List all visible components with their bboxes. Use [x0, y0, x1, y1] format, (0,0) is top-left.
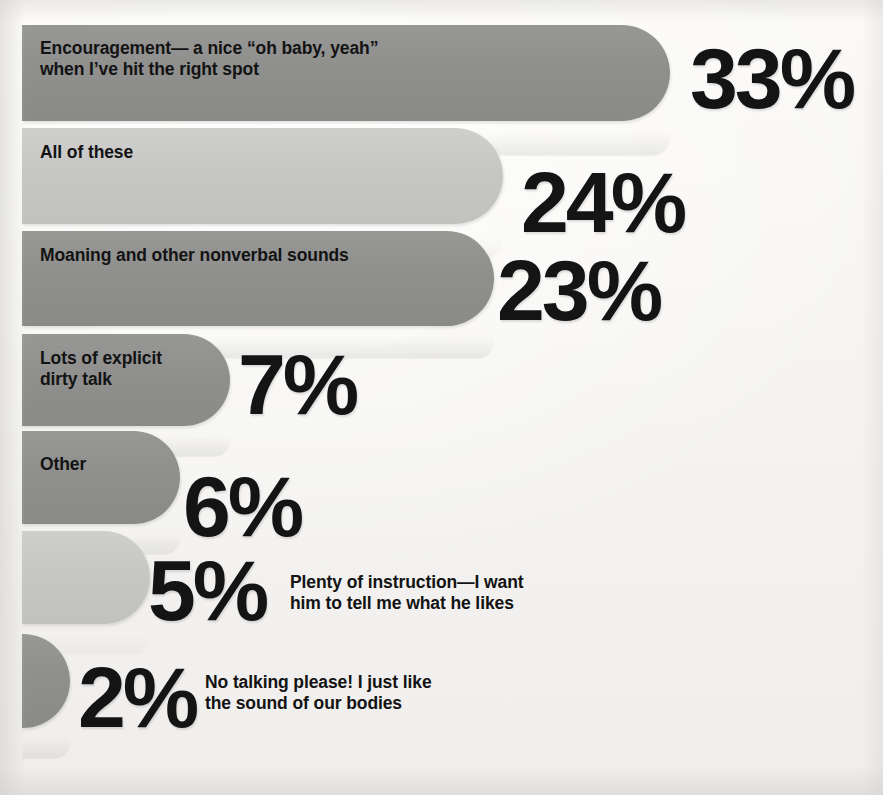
bar-track-7	[22, 634, 70, 728]
bar-label-5: Other	[40, 454, 86, 475]
bar-label-1: Encouragement— a nice “oh baby, yeah” wh…	[40, 38, 378, 80]
bar-label-2: All of these	[40, 142, 133, 163]
bar-track-6	[22, 531, 150, 624]
bar-value-2: 24%	[521, 159, 684, 245]
bar-chart-infographic: Encouragement— a nice “oh baby, yeah” wh…	[0, 0, 883, 795]
bar-caption-7: No talking please! I just like the sound…	[205, 672, 432, 714]
bar-label-4: Lots of explicit dirty talk	[40, 348, 162, 390]
bar-value-7: 2%	[78, 654, 196, 740]
bar-reflection-7	[22, 729, 70, 759]
bar-value-3: 23%	[497, 247, 660, 333]
bar-value-4: 7%	[238, 341, 356, 427]
bar-label-3: Moaning and other nonverbal sounds	[40, 245, 349, 266]
bar-value-6: 5%	[148, 547, 266, 633]
bar-caption-6: Plenty of instruction—I want him to tell…	[290, 572, 523, 614]
bar-value-5: 6%	[183, 463, 301, 549]
bar-value-1: 33%	[690, 35, 853, 121]
bar-track-5	[22, 431, 180, 524]
